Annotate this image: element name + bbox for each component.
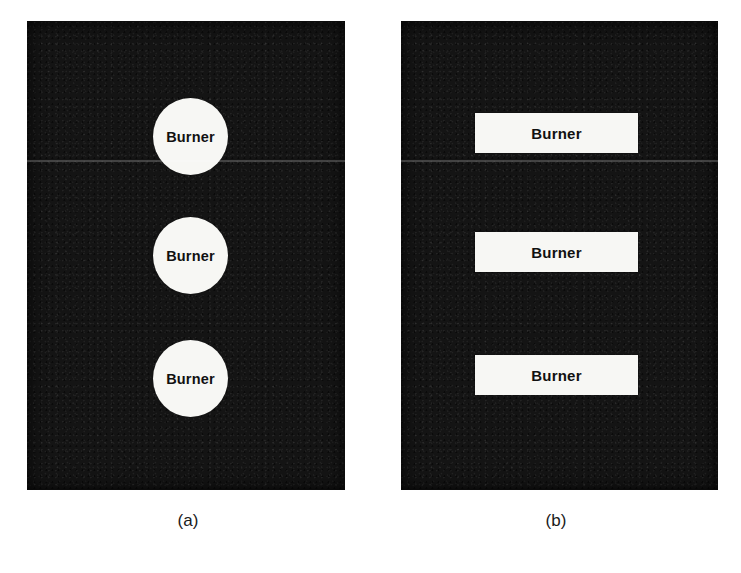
subfigure-b-panel: Burner Burner Burner xyxy=(401,21,718,490)
burner-circle-3: Burner xyxy=(153,340,228,417)
burner-rect-2: Burner xyxy=(475,232,638,272)
burner-label: Burner xyxy=(166,371,215,387)
burner-label: Burner xyxy=(531,125,581,142)
subfigure-b-caption: (b) xyxy=(496,511,616,531)
figure-container: Burner Burner Burner Burner Burner Burne… xyxy=(0,0,741,573)
burner-circle-2: Burner xyxy=(153,217,228,294)
burner-rect-1: Burner xyxy=(475,113,638,153)
subfigure-a-panel: Burner Burner Burner xyxy=(27,21,345,490)
subfigure-a-caption: (a) xyxy=(128,511,248,531)
burner-label: Burner xyxy=(166,129,215,145)
burner-label: Burner xyxy=(531,244,581,261)
burner-rect-3: Burner xyxy=(475,355,638,395)
burner-label: Burner xyxy=(531,367,581,384)
burner-label: Burner xyxy=(166,248,215,264)
burner-circle-1: Burner xyxy=(153,98,228,175)
